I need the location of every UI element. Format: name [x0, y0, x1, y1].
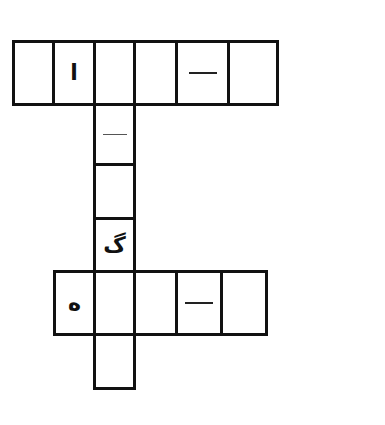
top-row-cell-2[interactable]: ا [52, 40, 96, 106]
bottom-row-cell-4[interactable] [175, 270, 223, 336]
top-row-cell-6[interactable] [227, 40, 279, 106]
bottom-row-cell-2[interactable] [93, 270, 136, 336]
dash-mark [103, 134, 127, 136]
column-cell-2[interactable] [93, 163, 136, 220]
column-cell-3[interactable]: گ [93, 217, 136, 273]
top-row-cell-3[interactable] [93, 40, 136, 106]
dash-mark [189, 72, 217, 74]
dash-mark [185, 302, 213, 304]
top-row-cell-5[interactable] [175, 40, 230, 106]
letter-gaf: گ [103, 234, 126, 256]
top-row-cell-1[interactable] [12, 40, 55, 106]
bottom-row-cell-1[interactable]: ه [53, 270, 96, 336]
tail-cell[interactable] [93, 333, 136, 390]
letter-alef: ا [70, 62, 78, 84]
bottom-row-cell-3[interactable] [133, 270, 178, 336]
column-cell-1[interactable] [93, 103, 136, 166]
bottom-row-cell-5[interactable] [220, 270, 268, 336]
top-row-cell-4[interactable] [133, 40, 178, 106]
letter-heh: ه [68, 292, 81, 314]
